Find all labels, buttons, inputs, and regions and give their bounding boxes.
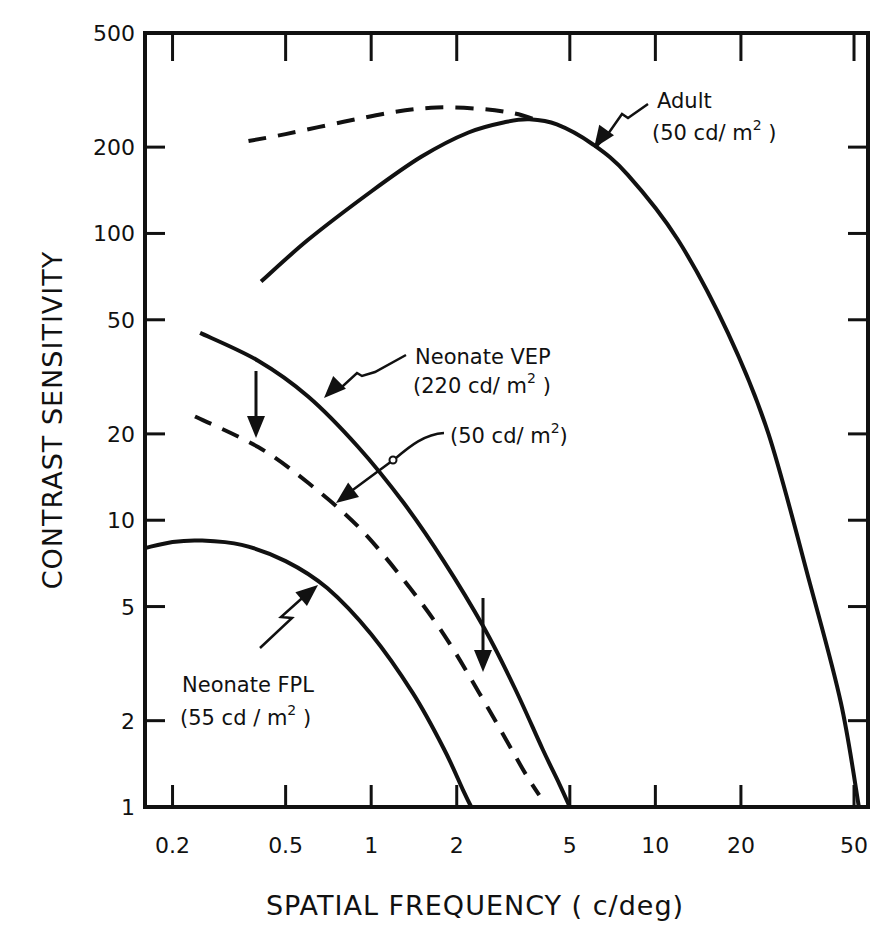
x-tick-label: 50	[840, 833, 868, 858]
arrowhead-icon	[324, 376, 346, 398]
arrowhead-icon	[474, 650, 492, 672]
x-tick-label: 5	[563, 833, 577, 858]
annotation-vep-50: (50 cd/ m2)	[450, 420, 568, 448]
neonate-fpl-label: Neonate FPL	[182, 673, 314, 697]
x-tick-label: 2	[450, 833, 464, 858]
y-tick-label: 5	[121, 595, 135, 620]
curve-neonate-vep-50-cd-m2	[195, 417, 539, 796]
x-tick-label: 0.2	[155, 833, 190, 858]
annotation-neonate-fpl: Neonate FPL (55 cd / m2 )	[180, 673, 314, 730]
y-axis-title: CONTRAST SENSITIVITY	[37, 251, 68, 590]
fpl-pointer	[260, 594, 307, 648]
y-tick-label: 2	[121, 709, 135, 734]
y-tick-label: 100	[93, 221, 135, 246]
adult-label: Adult	[657, 89, 712, 113]
arrowhead-icon	[336, 483, 359, 503]
vep-50-luminance: (50 cd/ m2)	[450, 420, 568, 448]
vep50-pointer	[350, 433, 444, 492]
arrowhead-icon	[295, 585, 318, 606]
neonate-fpl-luminance: (55 cd / m2 )	[180, 702, 311, 730]
neonate-vep-luminance: (220 cd/ m2 )	[413, 370, 551, 398]
x-axis-title: SPATIAL FREQUENCY ( c/deg)	[266, 890, 684, 921]
y-tick-label: 20	[107, 422, 135, 447]
arrowhead-icon	[247, 416, 265, 438]
y-tick-label: 200	[93, 135, 135, 160]
x-tick-label: 10	[641, 833, 669, 858]
neonate-vep-label: Neonate VEP	[415, 345, 551, 369]
curves	[145, 107, 859, 807]
y-tick-label: 50	[107, 308, 135, 333]
y-tick-label: 500	[93, 21, 135, 46]
contrast-sensitivity-chart: 0.20.5125102050 125102050100200500 SPATI…	[0, 0, 887, 938]
adult-luminance: (50 cd/ m2 )	[652, 117, 776, 145]
y-tick-label: 10	[107, 508, 135, 533]
annotation-neonate-vep: Neonate VEP (220 cd/ m2 )	[413, 345, 551, 398]
y-tick-label: 1	[121, 795, 135, 820]
x-tick-label: 1	[364, 833, 378, 858]
curve-adult-50-cd-m2	[261, 119, 859, 807]
x-tick-label: 20	[727, 833, 755, 858]
annotation-adult: Adult (50 cd/ m2 )	[652, 89, 776, 145]
x-tick-label: 0.5	[268, 833, 303, 858]
